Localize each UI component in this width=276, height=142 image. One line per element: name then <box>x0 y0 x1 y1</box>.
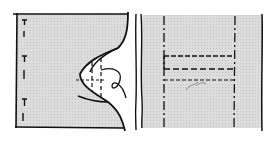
left-piece-fill <box>16 14 128 128</box>
right-strip-fill <box>142 15 262 128</box>
left-pattern-piece <box>13 12 128 131</box>
diagram-svg <box>0 0 276 142</box>
left-side-edge <box>16 13 17 128</box>
sketch-canvas: Pattern piece with curved edge and marke… <box>0 0 276 142</box>
left-ribbon-loop <box>101 69 126 98</box>
right-right-edge <box>262 14 263 131</box>
left-bottom-edge <box>15 127 124 128</box>
right-left-edge-outer <box>136 14 137 130</box>
right-folded-strip <box>136 14 263 131</box>
